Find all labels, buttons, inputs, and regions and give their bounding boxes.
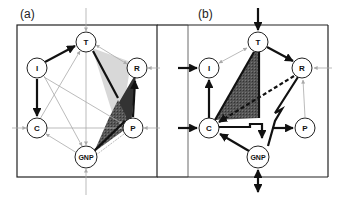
svg-text:P: P [130,124,136,133]
svg-text:T: T [256,38,261,47]
svg-text:P: P [302,124,308,133]
svg-text:I: I [36,64,38,73]
node-I: I [27,58,47,78]
node-P: P [295,118,315,138]
node-C: C [199,118,219,138]
node-I: I [199,58,219,78]
svg-text:C: C [206,124,212,133]
node-GNP: GNP [247,146,269,168]
node-T: T [248,32,268,52]
svg-text:R: R [134,64,140,73]
frames [17,25,328,177]
node-R: R [127,58,147,78]
svg-text:T: T [84,38,89,47]
panel-a-label: (a) [20,7,35,21]
svg-text:I: I [208,64,210,73]
node-T: T [76,32,96,52]
node-GNP: GNP [75,146,97,168]
diagram-canvas: (a) (b) [0,0,340,201]
panel-a: T I R C P GNP [12,8,160,195]
svg-text:C: C [34,124,40,133]
node-P: P [123,118,143,138]
svg-text:GNP: GNP [250,154,266,161]
panel-b-label: (b) [198,7,213,21]
svg-text:R: R [299,64,305,73]
svg-text:GNP: GNP [78,154,94,161]
panel-b: T I R C P GNP [178,8,332,192]
node-C: C [27,118,47,138]
node-R: R [292,58,312,78]
